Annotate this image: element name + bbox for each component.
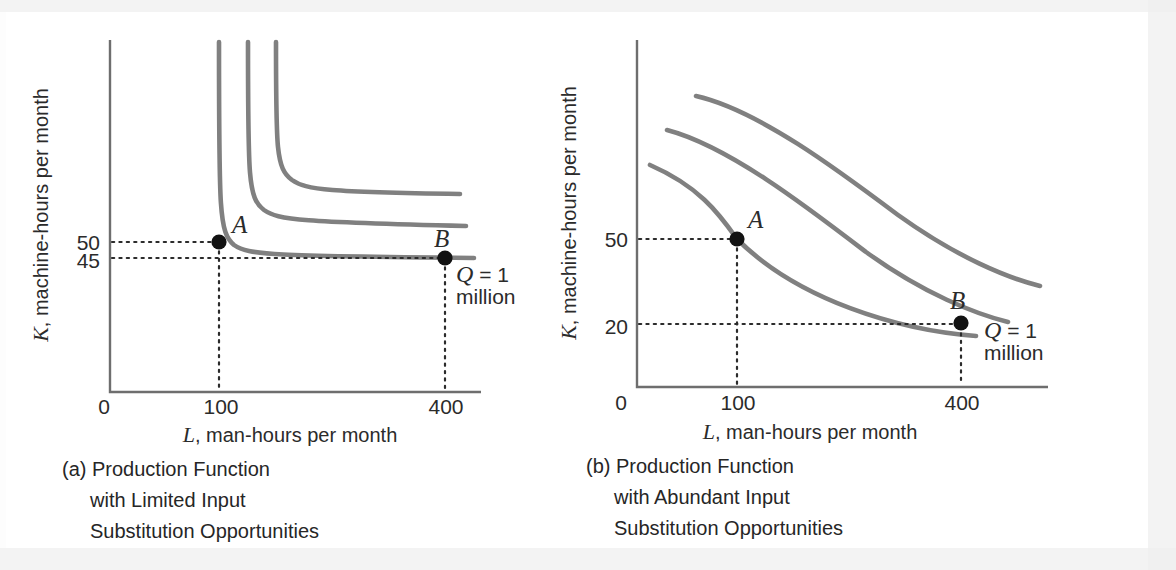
isoquant-q-symbol: Q (984, 317, 1001, 343)
isoquant-chart-b: A B Q = 1 million 50 20 0 100 400 L, man… (588, 0, 1176, 570)
xtick-label-400: 400 (428, 395, 463, 418)
x-axis-title-rest: , man-hours per month (195, 424, 397, 446)
data-point-b (437, 250, 452, 265)
caption-line-2: with Limited Input (89, 489, 246, 511)
data-point-a (211, 234, 226, 249)
ytick-label-20: 20 (605, 315, 628, 338)
isoquant-curve-b-3 (696, 96, 1040, 286)
caption-line-3: Substitution Opportunities (614, 517, 843, 539)
isoquant-curve-a-3 (276, 42, 460, 194)
chart-panel-b: A B Q = 1 million 50 20 0 100 400 L, man… (588, 0, 1176, 570)
xtick-label-100: 100 (203, 395, 238, 418)
isoquant-q-symbol: Q (456, 261, 473, 287)
y-axis-title-rest: , machine-hours per month (558, 86, 580, 325)
x-axis-title: L, man-hours per month (702, 419, 918, 444)
y-axis-title-rest: , machine-hours per month (30, 88, 52, 327)
y-axis-title-symbol: K (28, 326, 53, 343)
ytick-label-45: 45 (77, 249, 100, 272)
caption-line-2: with Abundant Input (613, 486, 790, 508)
isoquant-q-label-line2: million (456, 285, 516, 308)
caption-line-3: Substitution Opportunities (90, 520, 319, 542)
x-axis-title: L, man-hours per month (182, 422, 398, 447)
figure-page: A B Q = 1 million 50 45 0 100 400 L, man… (0, 0, 1176, 570)
isoquant-q-value: = 1 (1001, 319, 1037, 342)
isoquant-q-value: = 1 (473, 263, 509, 286)
y-axis-title: K, machine-hours per month (556, 86, 581, 341)
isoquant-q-label-line1: Q = 1 (456, 261, 509, 287)
axis-lines-a (110, 40, 481, 392)
point-label-a: A (230, 211, 248, 238)
xtick-label-0: 0 (98, 395, 110, 418)
point-label-b: B (434, 225, 449, 252)
isoquant-curve-a-2 (248, 42, 466, 226)
point-label-a: A (746, 206, 764, 233)
ytick-label-50: 50 (605, 228, 628, 251)
data-point-a (729, 231, 744, 246)
x-axis-title-symbol: L (182, 422, 195, 447)
caption-line-1: (a) Production Function (62, 458, 270, 480)
xtick-label-400: 400 (944, 391, 979, 414)
xtick-label-100: 100 (720, 391, 755, 414)
caption-line-1: (b) Production Function (586, 455, 794, 477)
isoquant-curve-b-1 (650, 165, 976, 336)
y-axis-title: K, machine-hours per month (28, 88, 53, 343)
x-axis-title-rest: , man-hours per month (715, 421, 917, 443)
isoquant-q-label-line2: million (984, 341, 1044, 364)
isoquant-chart-a: A B Q = 1 million 50 45 0 100 400 L, man… (0, 0, 588, 570)
y-axis-title-symbol: K (556, 324, 581, 341)
data-point-b (953, 315, 968, 330)
point-label-b: B (950, 287, 965, 314)
isoquant-q-label-line1: Q = 1 (984, 317, 1037, 343)
xtick-label-0: 0 (615, 391, 627, 414)
chart-panel-a: A B Q = 1 million 50 45 0 100 400 L, man… (0, 0, 588, 570)
x-axis-title-symbol: L (702, 419, 715, 444)
